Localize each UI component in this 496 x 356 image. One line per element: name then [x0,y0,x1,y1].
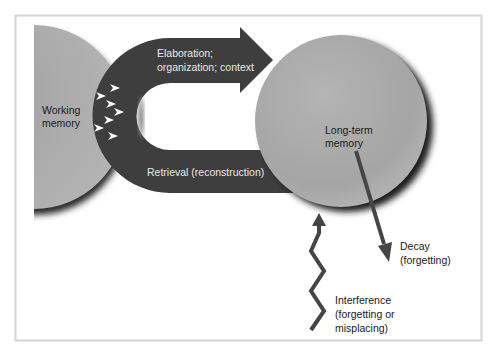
retrieval-label: Retrieval (reconstruction) [147,166,264,178]
interference-label: Interference (forgetting or misplacing) [335,294,397,334]
working-memory-label: Working memory [42,104,83,129]
long-term-memory-node [255,35,427,207]
memory-diagram: Working memory Elaboration; organization… [0,0,496,356]
